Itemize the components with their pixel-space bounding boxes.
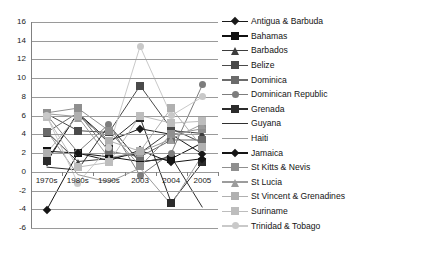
legend-label: Haiti [248, 133, 268, 143]
data-point-marker [168, 112, 175, 119]
y-tick-label: 6 [4, 112, 26, 120]
legend-item[interactable]: St Kitts & Nevis [222, 160, 422, 175]
y-tick-label: 14 [4, 37, 26, 45]
legend-marker-icon [232, 91, 239, 98]
data-point-marker [168, 150, 175, 157]
y-tick-label: 2 [4, 149, 26, 157]
legend-item[interactable]: Haiti [222, 131, 422, 146]
legend-line [222, 138, 248, 139]
legend-label: St Lucia [248, 177, 282, 187]
legend-label: Dominica [248, 75, 287, 85]
data-point-marker [136, 162, 144, 170]
legend-key-icon [222, 132, 248, 144]
legend-marker-icon [231, 17, 239, 25]
data-point-marker [136, 82, 144, 90]
data-point-marker [167, 104, 175, 112]
data-point-marker [167, 119, 175, 127]
legend-label: Trinidad & Tobago [248, 221, 320, 231]
legend-key-icon [222, 161, 248, 173]
data-point-marker [43, 128, 51, 136]
y-tick-label: 10 [4, 74, 26, 82]
data-point-marker [105, 127, 113, 135]
data-point-marker [74, 112, 82, 120]
data-point-marker [74, 163, 82, 171]
y-tick-label: 4 [4, 130, 26, 138]
legend-line [222, 123, 248, 124]
legend-item[interactable]: St Lucia [222, 175, 422, 190]
data-point-marker [43, 157, 51, 165]
y-tick-label: -6 [4, 224, 26, 232]
legend-label: Suriname [248, 206, 288, 216]
y-tick-label: 0 [4, 168, 26, 176]
legend-key-icon [222, 15, 248, 27]
legend-marker-icon [231, 105, 239, 113]
legend-marker-icon [231, 47, 239, 55]
data-point-marker [43, 149, 51, 157]
legend-marker-icon [232, 222, 239, 229]
gridline [31, 228, 218, 229]
legend-key-icon [222, 103, 248, 115]
legend-label: Jamaica [248, 148, 283, 158]
legend-item[interactable]: St Vincent & Grenadines [222, 189, 422, 204]
data-point-marker [167, 136, 175, 144]
chart-legend: Antigua & BarbudaBahamasBarbadosBelizeDo… [222, 14, 422, 233]
legend-marker-icon [231, 61, 239, 69]
legend-marker-icon [231, 179, 239, 187]
legend-item[interactable]: Bahamas [222, 29, 422, 44]
legend-key-icon [222, 59, 248, 71]
legend-label: Bahamas [248, 31, 287, 41]
legend-item[interactable]: Dominican Republic [222, 87, 422, 102]
plot-border [31, 22, 218, 228]
legend-key-icon [222, 176, 248, 188]
legend-label: St Kitts & Nevis [248, 162, 310, 172]
data-point-marker [136, 147, 144, 155]
y-tick-label: 8 [4, 93, 26, 101]
legend-key-icon [222, 30, 248, 42]
y-tick-label: 12 [4, 55, 26, 63]
legend-key-icon [222, 190, 248, 202]
legend-label: Belize [248, 60, 274, 70]
data-point-marker [74, 127, 82, 135]
data-point-marker [137, 43, 144, 50]
y-tick-label: -2 [4, 187, 26, 195]
data-point-marker [167, 199, 175, 207]
legend-key-icon [222, 74, 248, 86]
legend-item[interactable]: Barbados [222, 43, 422, 58]
legend-item[interactable]: Dominica [222, 72, 422, 87]
x-tick-label: 2005 [182, 176, 222, 185]
data-point-marker [198, 117, 206, 125]
y-tick-label: 16 [4, 18, 26, 26]
legend-label: Antigua & Barbuda [248, 16, 323, 26]
legend-marker-icon [231, 192, 239, 200]
legend-marker-icon [231, 76, 239, 84]
legend-marker-icon [231, 207, 239, 215]
legend-marker-icon [231, 163, 239, 171]
legend-item[interactable]: Antigua & Barbuda [222, 14, 422, 29]
y-tick-label: -4 [4, 205, 26, 213]
legend-label: Grenada [248, 104, 284, 114]
legend-marker-icon [231, 32, 239, 40]
legend-item[interactable]: Grenada [222, 102, 422, 117]
legend-key-icon [222, 88, 248, 100]
legend-key-icon [222, 205, 248, 217]
legend-item[interactable]: Jamaica [222, 145, 422, 160]
legend-item[interactable]: Guyana [222, 116, 422, 131]
legend-key-icon [222, 44, 248, 56]
legend-item[interactable]: Trinidad & Tobago [222, 218, 422, 233]
legend-label: Guyana [248, 118, 281, 128]
plot-area [31, 22, 218, 228]
legend-label: St Vincent & Grenadines [248, 191, 345, 201]
legend-key-icon [222, 117, 248, 129]
legend-item[interactable]: Belize [222, 58, 422, 73]
data-point-marker [198, 143, 206, 151]
legend-label: Dominican Republic [248, 89, 327, 99]
legend-key-icon [222, 220, 248, 232]
chart-container: 1614121086420-2-4-6 1970s1980s1990s20032… [0, 0, 424, 253]
legend-key-icon [222, 147, 248, 159]
legend-marker-icon [231, 148, 239, 156]
legend-item[interactable]: Suriname [222, 204, 422, 219]
data-point-marker [105, 158, 113, 166]
data-point-marker [136, 112, 144, 120]
legend-label: Barbados [248, 45, 288, 55]
